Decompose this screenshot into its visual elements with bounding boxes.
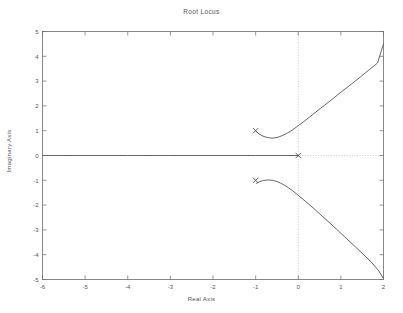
x-tick-label: 0: [297, 284, 301, 290]
locus-branch-upper-complex-branch: [256, 44, 383, 138]
x-tick-label: -5: [82, 284, 88, 290]
plot-canvas: -6-5-4-3-2-1012-5-4-3-2-1012345: [0, 0, 403, 313]
y-tick-label: 0: [35, 153, 39, 159]
x-tick-label: -2: [210, 284, 216, 290]
y-tick-label: 5: [35, 29, 39, 35]
y-tick-label: -4: [33, 252, 39, 258]
y-tick-label: 4: [35, 54, 39, 60]
x-tick-label: -4: [125, 284, 131, 290]
x-tick-label: 1: [339, 284, 343, 290]
marker-open-loop-pole: [253, 178, 258, 183]
root-locus-figure: Root Locus Imaginary Axis Real Axis -6-5…: [0, 0, 403, 313]
x-tick-label: 2: [382, 284, 386, 290]
x-tick-label: -3: [168, 284, 174, 290]
y-tick-label: -5: [33, 277, 39, 283]
y-tick-label: 2: [35, 103, 39, 109]
root-locus-plot: -6-5-4-3-2-1012-5-4-3-2-1012345: [0, 0, 403, 313]
y-tick-label: 1: [35, 128, 39, 134]
locus-branch-lower-complex-branch: [256, 180, 383, 278]
x-tick-label: -1: [253, 284, 259, 290]
marker-open-loop-pole: [253, 128, 258, 133]
y-tick-label: -1: [33, 178, 39, 184]
y-tick-label: 3: [35, 78, 39, 84]
y-tick-label: -2: [33, 202, 39, 208]
y-tick-label: -3: [33, 227, 39, 233]
x-tick-label: -6: [40, 284, 46, 290]
